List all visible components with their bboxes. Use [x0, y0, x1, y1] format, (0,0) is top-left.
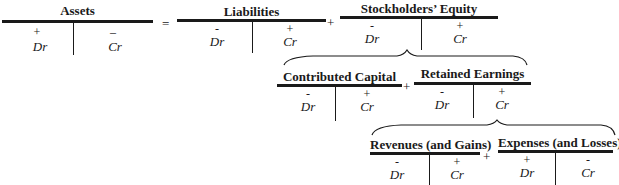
assets-title: Assets: [2, 3, 153, 19]
contributed-capital-divider: [335, 85, 336, 121]
revenues-credit-label: Cr: [442, 167, 472, 183]
liabilities-title: Liabilities: [177, 4, 326, 20]
equals-sign: =: [162, 16, 169, 32]
liabilities-debit-label: Dr: [202, 34, 232, 50]
stockholders-equity-credit-label: Cr: [445, 31, 475, 47]
assets-t-account: Assets + Dr – Cr: [2, 0, 153, 60]
liabilities-t-account: Liabilities - Dr + Cr: [177, 0, 326, 56]
contributed-capital-credit-label: Cr: [352, 99, 382, 115]
assets-bar: [2, 20, 153, 23]
assets-divider: [73, 21, 74, 55]
contributed-capital-t-account: Contributed Capital - Dr + Cr: [277, 66, 402, 122]
contributed-capital-debit-label: Dr: [293, 99, 323, 115]
assets-credit-label: Cr: [100, 39, 130, 55]
liabilities-divider: [252, 20, 253, 53]
contributed-capital-title: Contributed Capital: [277, 69, 402, 85]
plus-sign: +: [327, 15, 334, 31]
plus-sign: +: [483, 149, 490, 165]
retained-earnings-credit-label: Cr: [487, 97, 517, 113]
contributed-capital-bar: [277, 84, 402, 87]
retained-earnings-divider: [473, 83, 474, 118]
revenues-t-account: Revenues (and Gains) - Dr + Cr: [370, 136, 480, 185]
expenses-t-account: Expenses (and Losses) + Dr - Cr: [498, 134, 613, 185]
retained-earnings-debit-label: Dr: [427, 97, 457, 113]
expenses-divider: [555, 151, 556, 185]
stockholders-equity-title: Stockholders’ Equity: [340, 1, 498, 17]
stockholders-equity-debit-label: Dr: [357, 31, 387, 47]
plus-sign: +: [403, 79, 410, 95]
expenses-debit-label: Dr: [512, 165, 542, 181]
retained-earnings-t-account: Retained Earnings - Dr + Cr: [414, 66, 531, 120]
liabilities-credit-label: Cr: [275, 34, 305, 50]
revenues-title: Revenues (and Gains): [370, 137, 480, 153]
assets-debit-sign: +: [27, 25, 47, 40]
assets-credit-sign: –: [103, 25, 123, 40]
expenses-credit-label: Cr: [573, 165, 603, 181]
stockholders-equity-divider: [421, 17, 422, 50]
revenues-divider: [429, 153, 430, 185]
stockholders-equity-t-account: Stockholders’ Equity - Dr + Cr: [340, 0, 498, 52]
assets-debit-label: Dr: [25, 39, 55, 55]
equity-breakdown-brace: [283, 50, 528, 66]
expenses-title: Expenses (and Losses): [498, 135, 613, 151]
retained-earnings-title: Retained Earnings: [414, 66, 531, 82]
revenues-debit-label: Dr: [382, 167, 412, 183]
